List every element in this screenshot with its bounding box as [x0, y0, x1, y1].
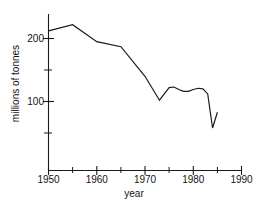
y-axis-title: millions of tonnes [10, 24, 21, 144]
y-tick-label-200: 200 [18, 33, 44, 44]
x-tick-label-1980: 1980 [173, 174, 213, 185]
data-series-line [49, 25, 218, 128]
x-tick-label-1960: 1960 [77, 174, 117, 185]
x-tick-label-1990: 1990 [222, 174, 262, 185]
x-tick-label-1970: 1970 [125, 174, 165, 185]
y-tick-label-100: 100 [18, 96, 44, 107]
x-axis-title: year [0, 188, 268, 199]
line-chart-figure: 200 100 1950 1960 1970 1980 1990 million… [0, 0, 268, 211]
x-tick-label-1950: 1950 [29, 174, 69, 185]
